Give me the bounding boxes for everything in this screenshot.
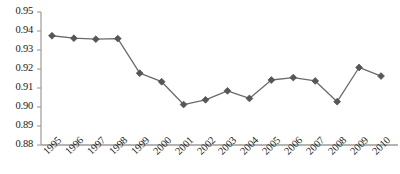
data-point-marker xyxy=(114,35,121,42)
line-chart: 0.880.890.900.910.920.930.940.9519951996… xyxy=(0,0,400,174)
y-axis-tick-label: 0.92 xyxy=(3,62,33,73)
data-point-marker xyxy=(92,36,99,43)
data-point-marker xyxy=(136,70,143,77)
y-axis-tick-label: 0.95 xyxy=(3,5,33,16)
data-point-marker xyxy=(356,64,363,71)
data-line-series-1 xyxy=(52,36,381,105)
y-axis-tick-label: 0.88 xyxy=(3,138,33,149)
data-point-marker xyxy=(378,73,385,80)
y-axis-tick-label: 0.89 xyxy=(3,119,33,130)
y-axis-tick-label: 0.94 xyxy=(3,24,33,35)
y-axis-tick-label: 0.91 xyxy=(3,81,33,92)
data-point-marker xyxy=(202,96,209,103)
y-axis-tick-label: 0.90 xyxy=(3,100,33,111)
data-point-marker xyxy=(224,87,231,94)
data-point-marker xyxy=(71,35,78,42)
y-axis-tick-label: 0.93 xyxy=(3,43,33,54)
data-point-marker xyxy=(290,74,297,81)
data-point-marker xyxy=(49,32,56,39)
